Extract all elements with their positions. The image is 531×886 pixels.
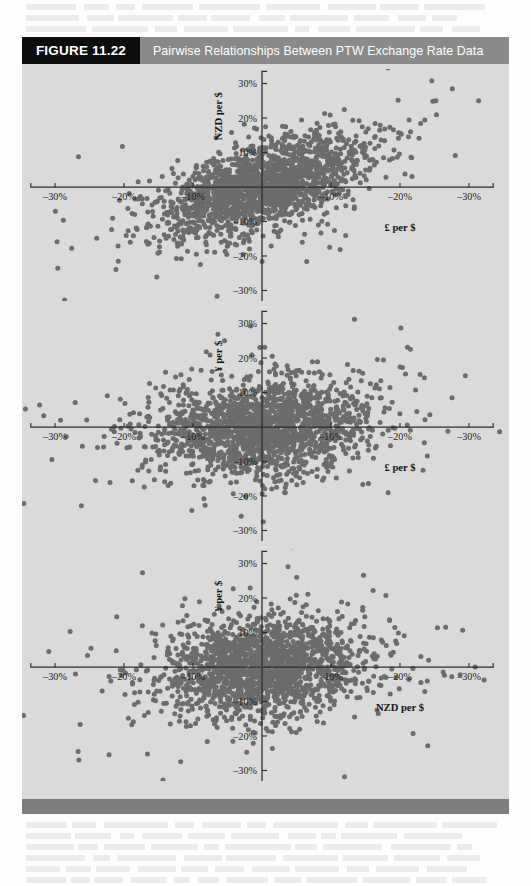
bleed-text-fragment: [247, 822, 267, 828]
bleed-text-fragment: [84, 4, 109, 10]
bleed-text-fragment: [198, 877, 219, 883]
y-tick-label: –30%: [232, 765, 257, 776]
bleed-text-fragment: [432, 15, 457, 21]
bleed-text-fragment: [306, 877, 357, 883]
bleed-text-fragment: [142, 833, 182, 839]
bleed-text-fragment: [104, 822, 168, 828]
y-tick-label: –20%: [232, 491, 257, 502]
x-tick-label: –30%: [42, 191, 67, 202]
bleed-text-fragment: [404, 833, 462, 839]
bleed-text-fragment: [416, 877, 447, 883]
bleed-text-fragment: [380, 4, 418, 10]
axes-group: [31, 71, 493, 301]
figure-title: Pairwise Relationships Between PTW Excha…: [140, 37, 509, 64]
bleed-text-fragment: [138, 866, 176, 872]
bleed-text-fragment: [116, 4, 134, 10]
y-tick-label: 30%: [238, 558, 257, 569]
bleed-text-fragment: [75, 833, 111, 839]
x-axis-title: NZD per $: [376, 702, 424, 713]
bleed-text-fragment: [26, 877, 66, 883]
bleed-text-fragment: [92, 26, 148, 32]
x-tick-label: –30%: [456, 191, 481, 202]
y-tick-label: –20%: [232, 251, 257, 262]
bleed-text-fragment: [274, 877, 300, 883]
x-tick-label: –20%: [387, 671, 412, 682]
x-tick-label: –30%: [456, 671, 481, 682]
x-tick-label: –20%: [387, 431, 412, 442]
y-tick-label: 10%: [238, 627, 257, 638]
figure-panel: FIGURE 11.22 Pairwise Relationships Betw…: [22, 37, 509, 814]
bleed-text-fragment: [376, 866, 419, 872]
bleed-text-fragment: [199, 4, 260, 10]
bleed-text-fragment: [295, 844, 317, 850]
y-tick-label: –10%: [232, 696, 257, 707]
bleed-text-fragment: [356, 26, 415, 32]
bleed-text-fragment: [78, 844, 98, 850]
figure-footer-bar: [22, 799, 509, 814]
bleed-text-fragment: [117, 855, 176, 861]
x-tick-label: –20%: [111, 191, 136, 202]
figure-page: { "figure": { "tag": "FIGURE 11.22", "ti…: [0, 0, 531, 886]
bleed-text-fragment: [452, 26, 481, 32]
bleed-text-fragment: [363, 877, 410, 883]
bleed-text-fragment: [26, 15, 79, 21]
bleed-text-fragment: [104, 844, 144, 850]
bleed-text-fragment: [290, 15, 348, 21]
y-axis-title: ¥ per $: [213, 581, 224, 612]
bleed-text-fragment: [142, 4, 193, 10]
bleed-text-fragment: [424, 4, 485, 10]
bleed-text-fragment: [204, 844, 218, 850]
y-tick-label: 20%: [238, 353, 257, 364]
x-axis-title: £ per $: [385, 222, 416, 233]
bleed-text-fragment: [391, 844, 451, 850]
bleed-text-fragment: [26, 4, 76, 10]
x-tick-label: –10%: [318, 191, 343, 202]
bleed-text-fragment: [26, 855, 85, 861]
bleed-text-fragment: [226, 877, 268, 883]
bleed-text-fragment: [26, 833, 71, 839]
bleed-text-fragment: [354, 15, 389, 21]
x-tick-label: –10%: [180, 671, 205, 682]
y-tick-label: 30%: [238, 78, 257, 89]
bleed-text-fragment: [184, 26, 228, 32]
scatter-point-group: [53, 69, 481, 301]
scatter-plot-jpy-vs-gbp: –30%–20%–10%–10%–20%–30%30%20%10%–10%–20…: [22, 309, 509, 541]
bleed-text-fragment: [72, 822, 96, 828]
bleed-text-fragment: [26, 26, 86, 32]
bleed-text-fragment: [398, 15, 426, 21]
bleed-text-fragment: [295, 866, 339, 872]
x-tick-label: –30%: [42, 671, 67, 682]
bleed-text-fragment: [283, 855, 338, 861]
bleed-text-fragment: [120, 833, 134, 839]
bleed-text-fragment: [318, 26, 350, 32]
y-tick-label: –10%: [232, 216, 257, 227]
x-tick-label: –10%: [180, 431, 205, 442]
y-tick-label: –20%: [232, 731, 257, 742]
bleed-text-fragment: [96, 866, 130, 872]
bleed-text-fragment: [273, 822, 338, 828]
bleed-text-fragment: [452, 877, 487, 883]
bleed-text-fragment: [118, 15, 173, 21]
bleed-text-fragment: [87, 15, 114, 21]
bleed-text-fragment: [188, 833, 225, 839]
bleed-text-fragment: [252, 866, 290, 872]
y-tick-label: 20%: [238, 113, 257, 124]
bleed-text-fragment: [321, 833, 335, 839]
bleed-text-fragment: [457, 844, 472, 850]
bleed-text-fragment: [93, 855, 110, 861]
bleed-text-fragment: [151, 844, 198, 850]
bleed-text-fragment: [26, 844, 74, 850]
y-tick-label: –10%: [232, 456, 257, 467]
y-tick-label: –30%: [232, 525, 257, 536]
bleed-text-fragment: [231, 833, 279, 839]
bleed-text-fragment: [131, 877, 167, 883]
axes-group: [31, 311, 493, 541]
bleed-text-fragment: [420, 26, 443, 32]
x-tick-label: –10%: [318, 431, 343, 442]
bleed-text-fragment: [202, 822, 242, 828]
bleed-text-fragment: [288, 833, 316, 839]
bleed-text-fragment: [175, 822, 195, 828]
bleed-text-fragment: [394, 855, 440, 861]
bleed-text-fragment: [211, 15, 249, 21]
y-tick-label: 30%: [238, 318, 257, 329]
